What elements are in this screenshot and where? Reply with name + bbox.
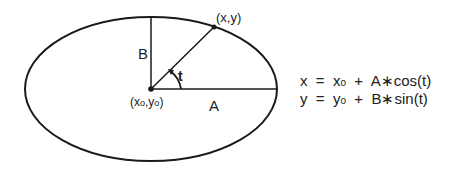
center-label: (xo,yo) bbox=[130, 95, 163, 109]
equation-x-equals: = bbox=[316, 72, 325, 89]
equation-y: y = yo + B∗sin(t) bbox=[300, 91, 428, 109]
equation-x-rest: + A∗cos(t) bbox=[354, 72, 431, 89]
equation-x: x = xo + A∗cos(t) bbox=[300, 73, 431, 91]
equation-y-equals: = bbox=[316, 90, 325, 107]
curve-point bbox=[212, 25, 217, 30]
angle-label: t bbox=[178, 68, 183, 84]
equation-y-subscript: o bbox=[340, 95, 346, 106]
center-x-subscript: o bbox=[140, 98, 145, 108]
semi-minor-label: B bbox=[138, 45, 148, 62]
center-point bbox=[148, 86, 154, 92]
equation-x-subscript: o bbox=[340, 77, 346, 88]
equation-x-lhs: x bbox=[300, 72, 308, 89]
center-y-subscript: o bbox=[154, 98, 159, 108]
equation-y-lhs: y bbox=[300, 90, 308, 107]
equation-y-rest: + B∗sin(t) bbox=[354, 90, 427, 107]
point-label: (x,y) bbox=[216, 10, 241, 25]
ellipse-diagram: B A t (x,y) (xo,yo) x = xo + A∗cos(t) y … bbox=[0, 0, 450, 170]
semi-major-label: A bbox=[209, 97, 219, 114]
